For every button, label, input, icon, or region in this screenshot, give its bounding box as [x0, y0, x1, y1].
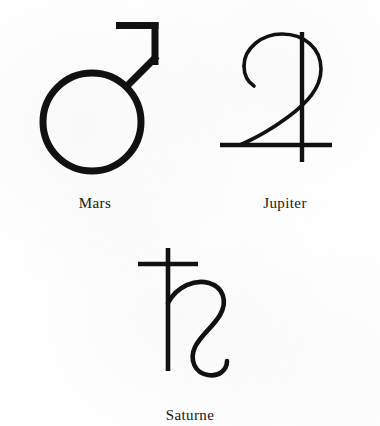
symbol-plate: Mars Jupiter [0, 0, 380, 426]
symbol-cell-mars: Mars [0, 14, 190, 211]
jupiter-symbol-icon [210, 14, 360, 174]
symbol-label-saturne: Saturne [166, 408, 215, 423]
symbol-label-jupiter: Jupiter [263, 196, 307, 211]
symbol-label-mars: Mars [79, 196, 111, 211]
saturn-symbol-icon [115, 243, 265, 388]
symbol-cell-saturne: Saturne [95, 243, 285, 423]
mars-symbol-icon [20, 14, 170, 174]
symbol-cell-jupiter: Jupiter [190, 14, 380, 211]
